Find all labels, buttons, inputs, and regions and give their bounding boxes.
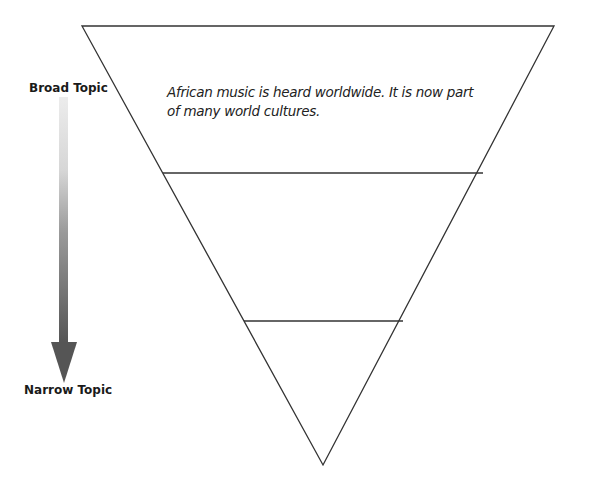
arrow-head-icon — [51, 342, 77, 383]
funnel-level-top-text: African music is heard worldwide. It is … — [167, 83, 487, 121]
arrow-shaft — [59, 97, 68, 343]
topic-arrow — [51, 97, 77, 383]
broad-topic-label: Broad Topic — [29, 81, 108, 95]
narrow-topic-label: Narrow Topic — [24, 383, 112, 397]
inverted-pyramid-diagram — [0, 0, 591, 493]
